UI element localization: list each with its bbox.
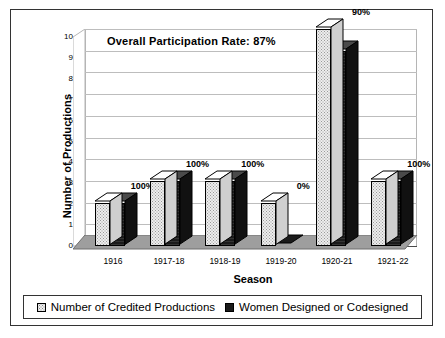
legend-label: Number of Credited Productions: [51, 301, 215, 313]
plot-side-wall: [73, 29, 85, 246]
y-tick-label-6: 6: [43, 117, 73, 125]
x-axis-labels: 19161917-181918-191919-201920-211921-22: [85, 256, 421, 270]
bar-group: [316, 29, 346, 246]
legend-item[interactable]: Women Designed or Codesigned: [225, 301, 408, 313]
legend-swatch-icon: [225, 303, 234, 312]
x-axis-label: 1917-18: [141, 256, 197, 270]
bar: [261, 203, 276, 246]
bar-group: [150, 29, 180, 246]
bar-series-container: 100%100%100%0%90%100%: [85, 29, 417, 246]
bar-3d-faces: [150, 171, 179, 246]
chart-frame: Number of Productions 012345678910 Overa…: [10, 9, 433, 326]
x-axis-title: Season: [85, 273, 421, 285]
y-tick-label-10: 10: [43, 33, 73, 41]
y-tick-label-5: 5: [43, 138, 73, 146]
bar: [316, 29, 331, 246]
x-axis-label: 1921-22: [365, 256, 421, 270]
y-tick-label-7: 7: [43, 96, 73, 104]
y-tick-label-3: 3: [43, 179, 73, 187]
bar: [95, 203, 110, 246]
bar: [150, 181, 165, 246]
y-tick-label-1: 1: [43, 221, 73, 229]
y-tick-label-8: 8: [43, 75, 73, 83]
x-axis-label: 1916: [85, 256, 141, 270]
x-axis-label: 1920-21: [309, 256, 365, 270]
y-tick-label-9: 9: [43, 54, 73, 62]
bar-3d-faces: [205, 171, 234, 246]
bar-group: [261, 29, 291, 246]
bar: [371, 181, 386, 246]
x-axis-label: 1918-19: [197, 256, 253, 270]
bar-group: [371, 29, 401, 246]
data-label: 100%: [407, 159, 430, 169]
x-axis-label: 1919-20: [253, 256, 309, 270]
bar-3d-faces: [95, 193, 124, 246]
data-label: 90%: [352, 7, 370, 17]
legend-swatch-icon: [37, 303, 46, 312]
legend-item[interactable]: Number of Credited Productions: [37, 301, 215, 313]
y-tick-label-2: 2: [43, 200, 73, 208]
bar-group: [95, 29, 125, 246]
legend-label: Women Designed or Codesigned: [239, 301, 408, 313]
y-tick-label-0: 0: [43, 242, 73, 250]
bar-3d-faces: [261, 193, 290, 246]
bar-3d-faces: [316, 19, 345, 246]
data-label: 0%: [297, 181, 310, 191]
y-tick-label-4: 4: [43, 158, 73, 166]
bar: [205, 181, 220, 246]
bar-3d-faces: [371, 171, 400, 246]
bar-group: [205, 29, 235, 246]
chart-legend: Number of Credited ProductionsWomen Desi…: [23, 295, 422, 319]
plot-area: Number of Productions 012345678910 Overa…: [11, 10, 434, 327]
